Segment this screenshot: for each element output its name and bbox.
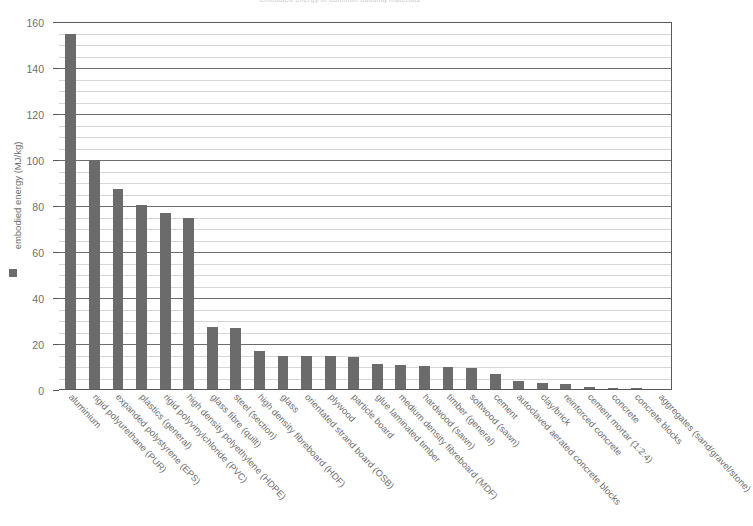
x-axis-label: aggregates (sand/gravel/stone) (656, 392, 752, 494)
y-axis-block: embodied energy (MJ/kg) (2, 22, 24, 390)
chart-title: embodied energy of common building mater… (160, 0, 520, 3)
legend-swatch-icon (9, 269, 17, 277)
y-axis-tick-label: 100 (26, 155, 44, 167)
y-axis-tick-label: 160 (26, 17, 44, 29)
y-axis-tick-label: 20 (32, 339, 44, 351)
y-axis-tick-label: 120 (26, 109, 44, 121)
y-axis-tick: 0 (53, 390, 59, 391)
plot-frame (59, 22, 672, 390)
plot-area: 020406080100120140160 (59, 22, 672, 390)
y-axis-tick-label: 140 (26, 63, 44, 75)
y-axis-tick-label: 60 (32, 247, 44, 259)
x-axis-labels: aluminiumrigid polyurethane (PUR)expande… (59, 392, 672, 526)
y-axis-label: embodied energy (MJ/kg) (12, 21, 23, 371)
x-axis-label: glass (279, 392, 301, 415)
y-axis-tick-label: 0 (38, 385, 44, 397)
y-axis-tick-label: 40 (32, 293, 44, 305)
y-axis-tick-label: 80 (32, 201, 44, 213)
